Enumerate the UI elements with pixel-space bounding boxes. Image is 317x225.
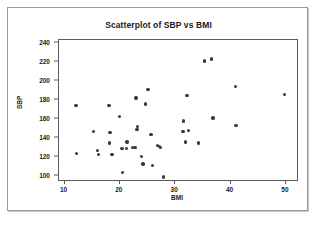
scatter-point (210, 57, 213, 60)
scatter-point (135, 128, 138, 131)
y-tick-label: 140 (39, 134, 50, 141)
x-tick-mark (230, 180, 231, 184)
scatter-point (140, 155, 143, 158)
x-tick-label: 40 (226, 186, 233, 193)
scatter-point (162, 175, 165, 178)
x-tick-label: 20 (115, 186, 122, 193)
scatter-point (182, 119, 185, 122)
plot-area (58, 39, 298, 181)
scatter-point (141, 162, 144, 165)
scatter-point (185, 94, 188, 97)
scatter-point (107, 104, 110, 107)
scatter-point (184, 140, 187, 143)
scatter-point (283, 93, 286, 96)
scatter-point (108, 141, 111, 144)
y-axis-title: SBP (16, 96, 23, 109)
chart-title: Scatterplot of SBP vs BMI (8, 20, 309, 30)
x-tick-mark (285, 180, 286, 184)
scatter-point (197, 141, 200, 144)
y-tick-label: 120 (39, 153, 50, 160)
y-tick-label: 220 (39, 57, 50, 64)
y-tick-label: 160 (39, 115, 50, 122)
x-axis-title: BMI (58, 194, 296, 201)
y-axis: 100120140160180200220240 (8, 39, 58, 179)
scatter-point (125, 147, 128, 150)
scatter-point (133, 146, 136, 149)
scatter-point (149, 133, 152, 136)
scatter-point (151, 164, 154, 167)
scatter-point (134, 96, 137, 99)
scatter-point (97, 153, 100, 156)
scatter-point (144, 102, 147, 105)
scatter-point (108, 131, 111, 134)
scatter-point (187, 129, 190, 132)
x-tick-mark (174, 180, 175, 184)
scatter-point (181, 130, 184, 133)
scatter-point (234, 85, 237, 88)
scatter-point (118, 115, 121, 118)
chart-figure-frame: Scatterplot of SBP vs BMI 10012014016018… (7, 7, 308, 211)
scatter-point (234, 124, 237, 127)
scatter-point (203, 59, 206, 62)
scatter-point (120, 147, 123, 150)
y-tick-label: 200 (39, 76, 50, 83)
x-tick-mark (64, 180, 65, 184)
x-tick-label: 50 (281, 186, 288, 193)
y-tick-label: 180 (39, 96, 50, 103)
scatter-point (125, 140, 128, 143)
scatter-point (159, 146, 162, 149)
x-tick-mark (119, 180, 120, 184)
scatter-point (96, 149, 99, 152)
scatter-point (75, 152, 78, 155)
scatter-point (211, 116, 214, 119)
scatter-point (74, 104, 77, 107)
x-tick-label: 30 (171, 186, 178, 193)
scatter-points-layer (59, 40, 297, 180)
y-tick-label: 100 (39, 172, 50, 179)
scatter-point (92, 130, 95, 133)
scatter-point (146, 88, 149, 91)
y-tick-label: 240 (39, 38, 50, 45)
scatter-point (121, 171, 124, 174)
x-tick-label: 10 (60, 186, 67, 193)
scatter-point (110, 153, 113, 156)
